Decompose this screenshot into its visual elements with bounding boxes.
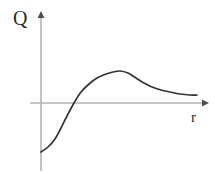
- y-axis-arrow-icon: [38, 11, 45, 18]
- plot-area: [0, 0, 215, 174]
- x-axis-arrow-icon: [202, 99, 209, 106]
- data-curve: [41, 71, 197, 152]
- x-axis-label: r: [191, 110, 196, 125]
- chart-figure: Q r: [0, 0, 215, 174]
- y-axis-label: Q: [13, 8, 27, 28]
